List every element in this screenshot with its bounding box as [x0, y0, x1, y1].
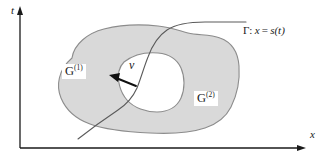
gamma-eq-arg: (t)	[274, 24, 284, 36]
gamma-curve-label: Γ: x = s(t)	[241, 24, 287, 37]
gamma-eq-sign: =	[262, 24, 268, 36]
region-g1-letter: G	[65, 64, 74, 78]
x-axis-arrowhead	[297, 145, 306, 151]
region-g2-letter: G	[197, 91, 206, 105]
gamma-eq-lhs: x	[255, 24, 260, 36]
figure-canvas: t x G(1) G(2) Γ: x = s(t) v⃗	[0, 0, 329, 162]
region-g1-superscript: (1)	[74, 63, 83, 72]
t-axis-arrowhead	[17, 6, 23, 15]
region-label-g1: G(1)	[62, 64, 86, 79]
t-axis-label: t	[11, 5, 14, 16]
region-g2-superscript: (2)	[206, 90, 215, 99]
x-axis-label: x	[310, 129, 315, 140]
velocity-vector-label: v⃗	[129, 59, 144, 71]
gamma-separator: :	[249, 24, 252, 36]
region-label-g2: G(2)	[194, 91, 218, 106]
